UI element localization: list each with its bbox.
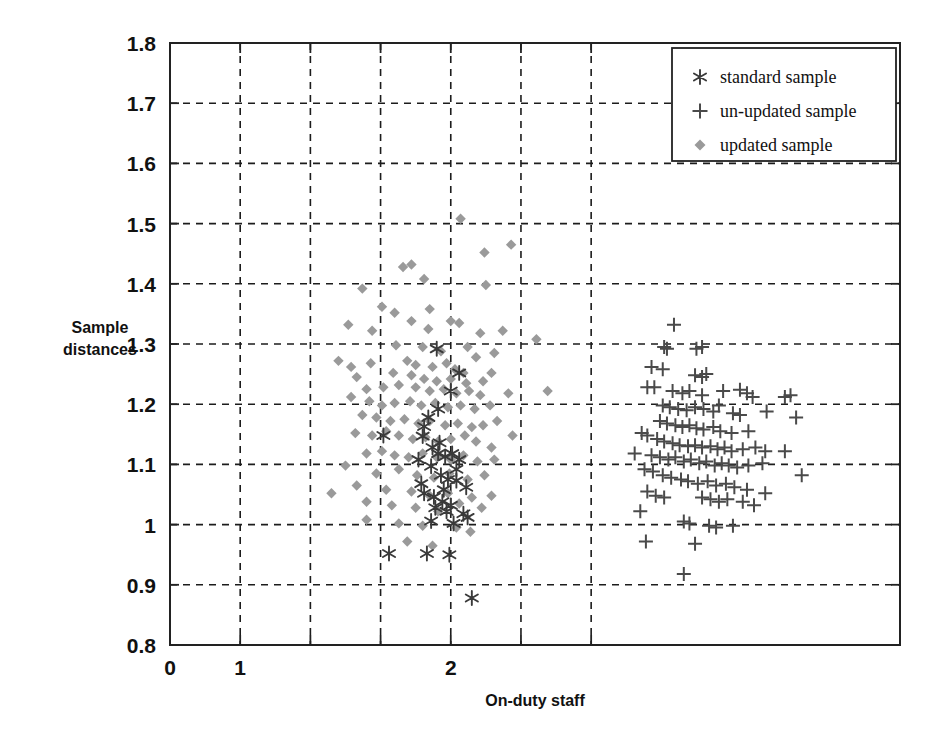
y-tick-label: 0.9 <box>127 574 156 597</box>
x-tick-label: 0 <box>164 656 176 679</box>
legend-item-label[interactable]: updated sample <box>720 135 832 155</box>
legend-item-label[interactable]: un-updated sample <box>720 101 856 121</box>
y-axis-title-line1: Sample <box>72 319 129 336</box>
y-tick-label: 1.4 <box>127 273 157 296</box>
y-tick-label: 1.8 <box>127 32 157 55</box>
chart-legend[interactable]: standard sampleun-updated sampleupdated … <box>672 48 896 161</box>
y-tick-label: 1.7 <box>127 92 156 115</box>
y-tick-label: 0.8 <box>127 634 157 657</box>
x-tick-label: 1 <box>234 656 246 679</box>
y-tick-label: 1.1 <box>127 453 157 476</box>
scatter-chart-figure: 0.80.911.11.21.31.41.51.61.71.8 012 On-d… <box>0 0 950 745</box>
legend-item-label[interactable]: standard sample <box>720 67 836 87</box>
y-tick-label: 1.5 <box>127 213 157 236</box>
chart-canvas: 0.80.911.11.21.31.41.51.61.71.8 012 On-d… <box>0 0 950 745</box>
x-tick-label: 2 <box>445 656 457 679</box>
y-tick-label: 1.2 <box>127 393 156 416</box>
y-tick-label: 1 <box>144 514 156 537</box>
x-axis-title: On-duty staff <box>485 692 585 709</box>
y-tick-label: 1.6 <box>127 152 156 175</box>
y-axis-title-line2: distances <box>63 341 137 358</box>
